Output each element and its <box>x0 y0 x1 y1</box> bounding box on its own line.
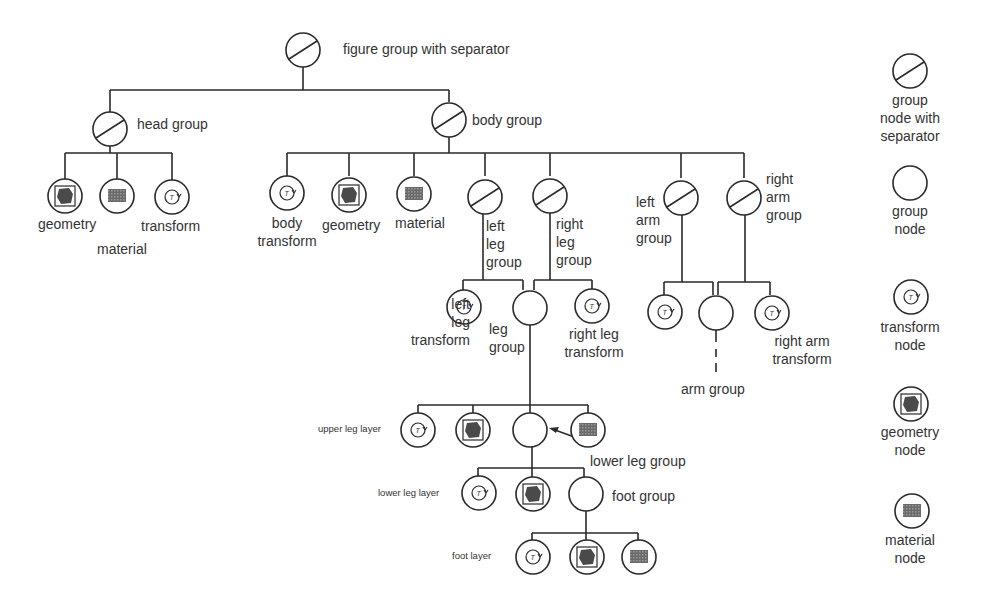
arm-group-node <box>699 296 733 330</box>
foot-group-label: foot group <box>612 487 675 505</box>
legend-transform-label: transform node <box>860 318 960 354</box>
right-arm-group-label: right arm group <box>766 170 802 224</box>
head-transform-node <box>155 180 189 214</box>
left-leg-transform-label: left leg transform <box>398 295 470 349</box>
body-geometry-label: geometry <box>322 216 380 234</box>
arm-group-label: arm group <box>681 380 745 398</box>
foot-group-node <box>569 477 603 511</box>
upper-leg-layer-label: upper leg layer <box>318 423 381 435</box>
body-material-label: material <box>395 214 445 232</box>
legend-material-label: material node <box>860 531 960 567</box>
head-group-label: head group <box>137 115 208 133</box>
left-leg-group-node <box>468 180 502 214</box>
lower-leg-group-node <box>513 413 547 447</box>
group-icon <box>893 166 927 200</box>
foot-layer-label: foot layer <box>452 550 491 562</box>
right-leg-group-node <box>533 179 567 213</box>
right-arm-transform-node <box>755 296 789 330</box>
group-separator-icon <box>893 54 927 88</box>
leg-group-label: leg group <box>489 320 525 356</box>
transform-icon <box>894 280 928 314</box>
geometry-icon <box>894 387 928 421</box>
right-leg-group-label: right leg group <box>556 215 592 269</box>
body-material-node <box>397 177 431 211</box>
body-group-label: body group <box>472 111 542 129</box>
right-arm-group-node <box>727 181 761 215</box>
head-geometry-label: geometry <box>38 215 96 233</box>
body-transform-label: body transform <box>247 214 327 250</box>
right-leg-transform-node <box>575 289 609 323</box>
head-material-label: material <box>97 240 147 258</box>
figure-group-node <box>286 33 320 67</box>
head-transform-label: transform <box>141 217 200 235</box>
material-icon <box>895 494 929 528</box>
right-leg-transform-label: right leg transform <box>556 325 632 361</box>
legend-group-separator-label: group node with separator <box>860 91 960 145</box>
diagram-graphics: T <box>0 0 985 604</box>
foot-material-node <box>622 540 656 574</box>
legend-geometry-label: geometry node <box>860 423 960 459</box>
upper-leg-geometry-node <box>456 413 490 447</box>
figure-group-label: figure group with separator <box>343 40 510 58</box>
scene-graph-diagram: T <box>0 0 985 604</box>
head-material-node <box>100 179 134 213</box>
lower-leg-geometry-node <box>516 477 550 511</box>
head-group-node <box>93 112 127 146</box>
left-leg-group-label: left leg group <box>486 217 522 271</box>
lower-leg-group-label: lower leg group <box>590 452 686 470</box>
left-arm-group-label: left arm group <box>636 193 672 247</box>
body-transform-node <box>270 176 304 210</box>
upper-leg-material-node <box>571 413 605 447</box>
foot-transform-node <box>516 540 550 574</box>
head-geometry-node <box>48 179 82 213</box>
body-group-node <box>432 103 466 137</box>
right-arm-transform-label: right arm transform <box>764 332 840 368</box>
legend-group-label: group node <box>860 202 960 238</box>
left-arm-transform-node <box>648 295 682 329</box>
lower-leg-transform-node <box>462 476 496 510</box>
body-geometry-node <box>332 178 366 212</box>
upper-leg-transform-node <box>401 413 435 447</box>
foot-geometry-node <box>570 540 604 574</box>
lower-leg-layer-label: lower leg layer <box>378 487 439 499</box>
